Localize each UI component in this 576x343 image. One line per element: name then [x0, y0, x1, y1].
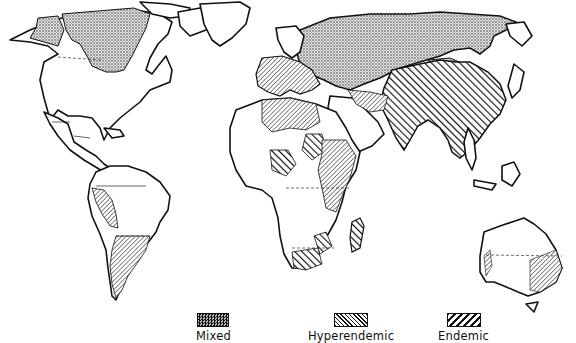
legend-item-endemic: Endemic — [438, 313, 489, 343]
world-map — [0, 0, 576, 343]
legend-label-endemic: Endemic — [438, 329, 489, 343]
endemic-swatch-icon — [447, 313, 481, 327]
legend-label-hyperendemic: Hyperendemic — [308, 329, 394, 343]
legend-item-mixed: Mixed — [196, 313, 231, 343]
mixed-swatch-icon — [197, 313, 229, 327]
hyperendemic-swatch-icon — [334, 313, 368, 327]
south-america — [88, 166, 170, 300]
africa — [230, 98, 364, 270]
legend-item-hyperendemic: Hyperendemic — [308, 313, 394, 343]
greenland — [200, 2, 250, 46]
australia — [480, 218, 562, 312]
legend-label-mixed: Mixed — [196, 329, 231, 343]
north-america — [10, 2, 214, 172]
